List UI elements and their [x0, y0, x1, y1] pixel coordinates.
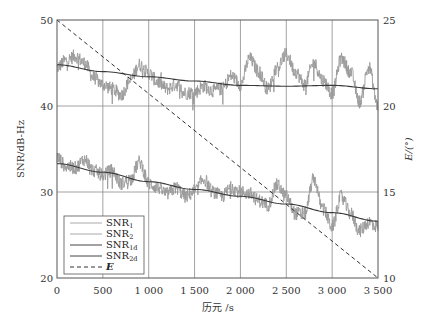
x-tick-label: 1 500: [180, 285, 209, 296]
x-tick-label: 2 000: [226, 285, 255, 296]
y-tick-label: 30: [40, 187, 53, 198]
x-tick-label: 1 000: [134, 285, 163, 296]
x-axis-ticks: 05001 0001 5002 0002 5003 0003 500: [54, 285, 393, 296]
y-tick-label: 40: [40, 101, 53, 112]
x-tick-label: 3 500: [364, 285, 393, 296]
y-tick-label: 50: [40, 15, 53, 26]
y2-tick-label: 10: [383, 273, 396, 284]
y-tick-label: 20: [40, 273, 53, 284]
x-tick-label: 3 000: [318, 285, 347, 296]
x-tick-label: 0: [54, 285, 60, 296]
legend-label: E: [105, 261, 114, 272]
y2-tick-label: 15: [383, 187, 396, 198]
y2-tick-label: 25: [383, 15, 396, 26]
legend: SNR1SNR2SNR1dSNR2dE: [64, 216, 144, 274]
chart: 05001 0001 5002 0002 5003 0003 500 20304…: [0, 0, 431, 335]
y2-axis-label: E/(°): [403, 137, 414, 162]
x-axis-label: 历元 /s: [202, 302, 234, 313]
y-axis-ticks: 20304050: [40, 15, 53, 284]
y-axis-label: SNR/dB-Hz: [15, 120, 26, 178]
y2-tick-label: 20: [383, 101, 396, 112]
y2-axis-ticks: 10152025: [383, 15, 396, 284]
x-tick-label: 500: [93, 285, 112, 296]
x-tick-label: 2 500: [272, 285, 301, 296]
